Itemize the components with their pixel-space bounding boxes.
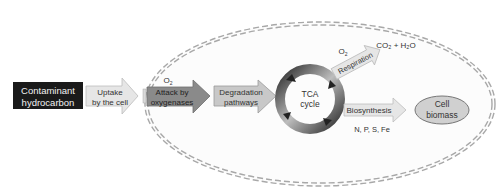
attack-label-line1: Attack by — [156, 88, 189, 97]
uptake-arrow: Uptake by the cell — [86, 78, 138, 114]
uptake-label-line1: Uptake — [97, 88, 123, 97]
cell-biomass-node: Cell biomass — [415, 96, 469, 124]
diagram-canvas: Contaminant hydrocarbon Uptake by the ce… — [0, 0, 498, 192]
tca-label-line1: TCA — [302, 89, 319, 99]
biomass-label-line2: biomass — [426, 110, 458, 120]
uptake-label-line2: by the cell — [92, 98, 128, 107]
degradation-label-line2: pathways — [224, 98, 258, 107]
biomass-label-line1: Cell — [435, 99, 450, 109]
contaminant-label-line1: Contaminant — [21, 85, 75, 96]
respiration-output-label: CO₂ + H₂O — [376, 41, 415, 50]
contaminant-hydrocarbon-box: Contaminant hydrocarbon — [13, 82, 83, 109]
degradation-label-line1: Degradation — [219, 88, 263, 97]
biosynthesis-nutrients-label: N, P, S, Fe — [354, 125, 390, 134]
biosynthesis-label: Biosynthesis — [347, 106, 392, 115]
tca-label-line2: cycle — [300, 99, 320, 109]
attack-label-line2: oxygenases — [151, 98, 194, 107]
contaminant-label-line2: hydrocarbon — [22, 97, 75, 108]
